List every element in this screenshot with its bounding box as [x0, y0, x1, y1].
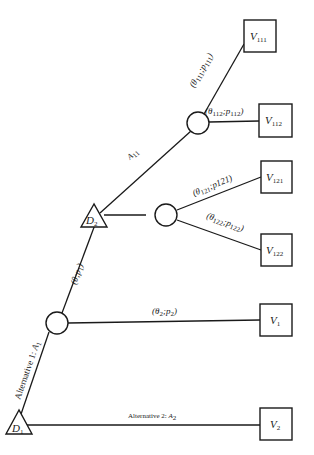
- edge-theta112: [209, 121, 259, 122]
- edge-theta2: [68, 320, 260, 323]
- label-alternative-2: Alternative 2: A2: [128, 412, 177, 422]
- terminal-v111: V111: [244, 20, 276, 52]
- label-theta112: (θ112;p112): [205, 106, 243, 118]
- terminal-v112: V112: [259, 104, 292, 137]
- terminal-v2: V2: [260, 408, 292, 440]
- label-a11: A11: [125, 147, 142, 164]
- label-theta-p1: (θ;p1): [68, 262, 86, 286]
- terminal-v1: V1: [260, 304, 292, 336]
- decision-node-d1: D1: [6, 410, 32, 436]
- chance-node-c1: [46, 312, 68, 334]
- terminal-v122: V122: [261, 234, 292, 266]
- edge-a11: [100, 131, 191, 213]
- terminal-v121: V121: [261, 161, 292, 193]
- label-theta111: (θ111;p111): [187, 51, 216, 90]
- decision-node-d2: D2: [81, 204, 107, 228]
- chance-node-c12: [155, 204, 177, 226]
- decision-tree-diagram: D1 D2 V111 V112 V121 V122 V1 V2 Alternat…: [0, 0, 314, 455]
- label-theta2: (θ2;p2): [152, 306, 177, 318]
